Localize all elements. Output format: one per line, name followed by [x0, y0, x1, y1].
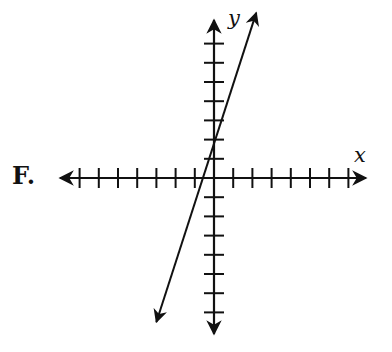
y-axis-label: y — [228, 6, 240, 30]
plotted-line — [156, 13, 256, 322]
answer-choice-label: F. — [12, 161, 35, 190]
x-axis-label: x — [354, 143, 366, 167]
coordinate-plane — [0, 0, 392, 352]
